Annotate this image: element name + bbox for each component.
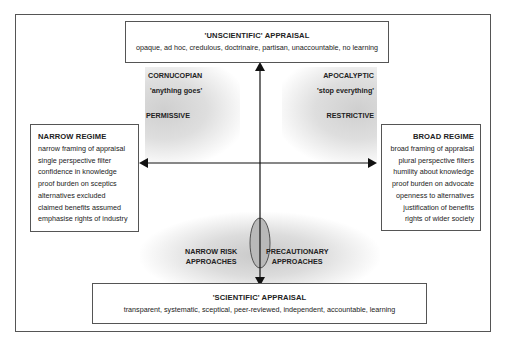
- narrow-regime-box: NARROW REGIME narrow framing of appraisa…: [30, 124, 139, 232]
- narrow-regime-item: alternatives excluded: [38, 190, 138, 202]
- narrow-regime-item: proof burden on sceptics: [38, 178, 138, 190]
- broad-regime-title: BROAD REGIME: [382, 132, 474, 141]
- arrow-right-icon: [368, 158, 377, 168]
- narrow-regime-title: NARROW REGIME: [38, 132, 138, 141]
- permissive-label: PERMISSIVE: [146, 111, 190, 120]
- broad-regime-box: BROAD REGIME broad framing of appraisal …: [381, 124, 481, 231]
- cornucopian-label: CORNUCOPIAN: [148, 71, 202, 80]
- precautionary-line2: APPROACHES: [266, 257, 328, 267]
- apocalyptic-label: APOCALYPTIC: [323, 71, 374, 80]
- unscientific-appraisal-box: 'UNSCIENTIFIC' APPRAISAL opaque, ad hoc,…: [125, 21, 389, 63]
- broad-regime-item: openness to alternatives: [382, 190, 474, 202]
- broad-regime-item: humility about knowledge: [382, 166, 474, 178]
- scientific-appraisal-box: 'SCIENTIFIC' APPRAISAL transparent, syst…: [92, 283, 427, 324]
- broad-regime-item: plural perspective filters: [382, 155, 474, 167]
- anything-goes-label: 'anything goes': [150, 86, 202, 95]
- broad-regime-item: rights of wider society: [382, 213, 474, 225]
- arrow-up-icon: [255, 62, 265, 71]
- arrow-left-icon: [139, 158, 148, 168]
- restrictive-label: RESTRICTIVE: [326, 111, 374, 120]
- unscientific-title: 'UNSCIENTIFIC' APPRAISAL: [126, 31, 388, 40]
- unscientific-description: opaque, ad hoc, credulous, doctrinaire, …: [126, 42, 388, 54]
- precautionary-approaches-label: PRECAUTIONARY APPROACHES: [266, 247, 328, 267]
- narrow-regime-item: claimed benefits assumed: [38, 202, 138, 214]
- scientific-title: 'SCIENTIFIC' APPRAISAL: [93, 293, 426, 302]
- narrow-risk-line1: NARROW RISK: [185, 247, 237, 257]
- narrow-regime-item: narrow framing of appraisal: [38, 143, 138, 155]
- narrow-risk-line2: APPROACHES: [185, 257, 237, 267]
- narrow-regime-item: emphasise rights of industry: [38, 213, 138, 225]
- broad-regime-item: broad framing of appraisal: [382, 143, 474, 155]
- narrow-regime-item: confidence in knowledge: [38, 166, 138, 178]
- scientific-description: transparent, systematic, sceptical, peer…: [93, 304, 426, 316]
- broad-regime-item: justification of benefits: [382, 202, 474, 214]
- precautionary-line1: PRECAUTIONARY: [266, 247, 328, 257]
- narrow-risk-approaches-label: NARROW RISK APPROACHES: [185, 247, 237, 267]
- stop-everything-label: 'stop everything': [317, 86, 374, 95]
- broad-regime-item: proof burden on advocate: [382, 178, 474, 190]
- narrow-regime-item: single perspective filter: [38, 155, 138, 167]
